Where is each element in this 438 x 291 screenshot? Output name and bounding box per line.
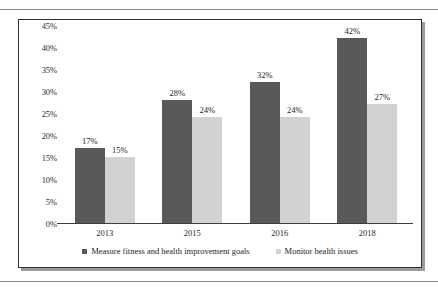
x-axis-tick-label: 2015 bbox=[184, 228, 201, 238]
page-rule-bottom bbox=[0, 281, 438, 282]
page-canvas: 0%5%10%15%20%25%30%35%40%45% 17%15%28%24… bbox=[0, 0, 438, 291]
bar-group: 42%27% bbox=[324, 25, 412, 223]
bar-2015-series0[interactable]: 28% bbox=[162, 100, 192, 223]
bar-2016-series1[interactable]: 24% bbox=[280, 117, 310, 223]
y-axis-tick-label: 15% bbox=[23, 154, 57, 163]
bar-2018-series0[interactable]: 42% bbox=[337, 38, 367, 223]
y-axis-tick-label: 35% bbox=[23, 66, 57, 75]
chart-legend: Measure fitness and health improvement g… bbox=[19, 246, 421, 256]
bar-slot: 27% bbox=[367, 104, 397, 223]
bar-group: 28%24% bbox=[149, 25, 237, 223]
y-axis-tick-label: 40% bbox=[23, 44, 57, 53]
y-axis-tick-label: 0% bbox=[23, 220, 57, 229]
bar-slot: 42% bbox=[337, 38, 367, 223]
legend-item[interactable]: Monitor health issues bbox=[276, 246, 358, 256]
page-rule-top bbox=[0, 9, 438, 10]
bar-2013-series1[interactable]: 15% bbox=[105, 157, 135, 223]
legend-label: Measure fitness and health improvement g… bbox=[91, 246, 249, 256]
bar-group: 32%24% bbox=[236, 25, 324, 223]
chart-frame: 0%5%10%15%20%25%30%35%40%45% 17%15%28%24… bbox=[18, 19, 422, 268]
bar-value-label: 24% bbox=[199, 106, 215, 115]
bar-2016-series0[interactable]: 32% bbox=[250, 82, 280, 223]
chart-plot-region: 0%5%10%15%20%25%30%35%40%45% 17%15%28%24… bbox=[19, 20, 421, 267]
bar-group: 17%15% bbox=[61, 25, 149, 223]
legend-item[interactable]: Measure fitness and health improvement g… bbox=[82, 246, 249, 256]
bar-slot: 24% bbox=[192, 117, 222, 223]
x-axis-tick-label: 2013 bbox=[96, 228, 113, 238]
bar-slot: 28% bbox=[162, 100, 192, 223]
y-axis-tick-label: 25% bbox=[23, 110, 57, 119]
x-axis: 2013201520162018 bbox=[61, 228, 411, 242]
legend-label: Monitor health issues bbox=[285, 246, 358, 256]
bar-value-label: 28% bbox=[169, 89, 185, 98]
bar-value-label: 32% bbox=[257, 71, 273, 80]
x-axis-tick-label: 2018 bbox=[359, 228, 376, 238]
bar-slot: 32% bbox=[250, 82, 280, 223]
bar-slot: 15% bbox=[105, 157, 135, 223]
y-axis-tick-label: 10% bbox=[23, 176, 57, 185]
bar-2015-series1[interactable]: 24% bbox=[192, 117, 222, 223]
bar-value-label: 42% bbox=[344, 27, 360, 36]
y-axis-tick-label: 5% bbox=[23, 198, 57, 207]
bar-2018-series1[interactable]: 27% bbox=[367, 104, 397, 223]
y-axis-tick-label: 20% bbox=[23, 132, 57, 141]
y-axis: 0%5%10%15%20%25%30%35%40%45% bbox=[23, 26, 57, 224]
bar-value-label: 15% bbox=[112, 146, 128, 155]
bar-slot: 24% bbox=[280, 117, 310, 223]
y-axis-tick-label: 45% bbox=[23, 22, 57, 31]
plot-area: 17%15%28%24%32%24%42%27% bbox=[61, 26, 411, 224]
bar-slot: 17% bbox=[75, 148, 105, 223]
bar-value-label: 17% bbox=[82, 137, 98, 146]
bar-value-label: 24% bbox=[287, 106, 303, 115]
bar-2013-series0[interactable]: 17% bbox=[75, 148, 105, 223]
legend-swatch-icon bbox=[82, 249, 87, 254]
y-axis-tick-label: 30% bbox=[23, 88, 57, 97]
x-axis-tick-label: 2016 bbox=[271, 228, 288, 238]
legend-swatch-icon bbox=[276, 249, 281, 254]
bar-value-label: 27% bbox=[374, 93, 390, 102]
